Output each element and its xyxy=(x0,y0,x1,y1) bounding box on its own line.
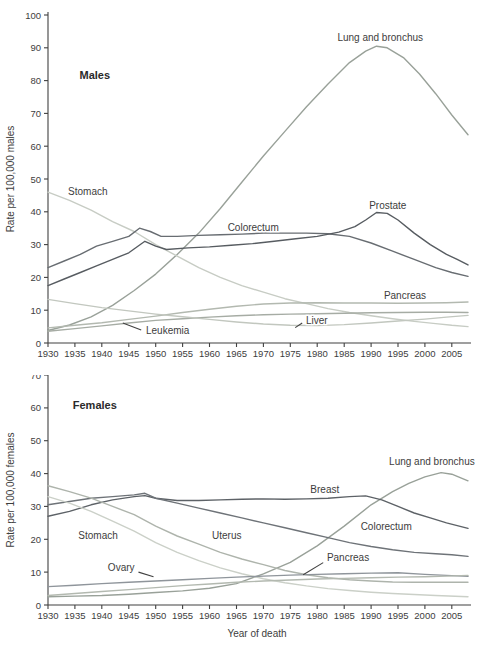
series-label-prostate: Prostate xyxy=(369,200,407,211)
x-tick-label: 1970 xyxy=(253,610,274,621)
y-tick-label: 0 xyxy=(36,338,41,349)
x-tick-label: 1980 xyxy=(307,348,328,359)
y-tick-label: 90 xyxy=(30,42,41,53)
females-y-axis-title: Rate per 100,000 females xyxy=(5,432,16,547)
x-tick-label: 1970 xyxy=(253,348,274,359)
y-tick-label: 100 xyxy=(25,10,41,21)
x-tick-label: 1995 xyxy=(387,348,408,359)
y-tick-label: 60 xyxy=(30,141,41,152)
y-tick-label: 80 xyxy=(30,75,41,86)
series-label-colorectum: Colorectum xyxy=(228,222,279,233)
x-tick-label: 1975 xyxy=(280,610,301,621)
x-tick-label: 1990 xyxy=(361,348,382,359)
x-tick-label: 1955 xyxy=(172,348,193,359)
x-tick-label: 1960 xyxy=(199,348,220,359)
y-tick-label: 40 xyxy=(30,468,41,479)
callout-line-pancreas xyxy=(303,563,323,575)
x-tick-label: 2000 xyxy=(414,348,435,359)
panel-label-males: Males xyxy=(80,69,111,81)
series-line-colorectum xyxy=(48,228,468,276)
series-label-leukemia: Leukemia xyxy=(146,325,190,336)
x-tick-label: 1935 xyxy=(64,610,85,621)
males-plot: 0102030405060708090100193019351940194519… xyxy=(25,10,471,360)
series-label-lung-and-bronchus: Lung and bronchus xyxy=(337,32,423,43)
callout-line-ovary xyxy=(139,572,154,577)
panel-label-females: Females xyxy=(73,399,117,411)
y-tick-label: 10 xyxy=(30,305,41,316)
y-tick-label: 70 xyxy=(30,375,41,381)
series-label-ovary: Ovary xyxy=(108,562,135,573)
series-label-pancreas: Pancreas xyxy=(327,552,369,563)
series-label-lung-and-bronchus: Lung and bronchus xyxy=(389,456,475,467)
x-tick-label: 1960 xyxy=(199,610,220,621)
x-tick-label: 1990 xyxy=(361,610,382,621)
x-tick-label: 1950 xyxy=(145,610,166,621)
y-tick-label: 40 xyxy=(30,206,41,217)
callout-line-leukemia xyxy=(123,323,141,330)
x-tick-label: 1975 xyxy=(280,348,301,359)
series-label-colorectum: Colorectum xyxy=(361,521,412,532)
x-tick-label: 1940 xyxy=(91,348,112,359)
y-tick-label: 20 xyxy=(30,272,41,283)
y-tick-label: 50 xyxy=(30,174,41,185)
x-tick-label: 1980 xyxy=(307,610,328,621)
series-label-breast: Breast xyxy=(310,484,339,495)
x-tick-label: 1930 xyxy=(37,348,58,359)
x-tick-label: 1985 xyxy=(334,610,355,621)
x-tick-label: 1945 xyxy=(118,348,139,359)
y-tick-label: 70 xyxy=(30,108,41,119)
y-tick-label: 50 xyxy=(30,435,41,446)
series-line-ovary xyxy=(48,573,468,587)
x-tick-label: 1995 xyxy=(387,610,408,621)
y-tick-label: 30 xyxy=(30,239,41,250)
series-label-uterus: Uterus xyxy=(212,530,241,541)
cancer-death-rates-figure: 0102030405060708090100193019351940194519… xyxy=(0,0,488,645)
females-chart: 0102030405060701930193519401945195019551… xyxy=(0,375,488,645)
x-tick-label: 2005 xyxy=(441,610,462,621)
series-label-pancreas: Pancreas xyxy=(384,290,426,301)
series-label-stomach: Stomach xyxy=(78,530,117,541)
x-tick-label: 2000 xyxy=(414,610,435,621)
x-tick-label: 1965 xyxy=(226,348,247,359)
y-tick-label: 0 xyxy=(36,600,41,611)
males-chart: 0102030405060708090100193019351940194519… xyxy=(0,0,488,375)
x-tick-label: 1940 xyxy=(91,610,112,621)
x-tick-label: 1935 xyxy=(64,348,85,359)
y-tick-label: 60 xyxy=(30,402,41,413)
y-tick-label: 30 xyxy=(30,501,41,512)
series-line-lung-and-bronchus xyxy=(48,46,468,330)
x-tick-label: 2005 xyxy=(441,348,462,359)
x-axis-title: Year of death xyxy=(227,628,286,639)
series-label-liver: Liver xyxy=(306,315,328,326)
x-tick-label: 1950 xyxy=(145,348,166,359)
y-tick-label: 20 xyxy=(30,534,41,545)
series-label-stomach: Stomach xyxy=(68,186,107,197)
females-plot: 0102030405060701930193519401945195019551… xyxy=(30,375,474,621)
x-tick-label: 1945 xyxy=(118,610,139,621)
y-tick-label: 10 xyxy=(30,567,41,578)
x-tick-label: 1930 xyxy=(37,610,58,621)
x-tick-label: 1965 xyxy=(226,610,247,621)
males-y-axis-title: Rate per 100,000 males xyxy=(5,126,16,233)
series-line-pancreas xyxy=(48,575,468,595)
x-tick-label: 1955 xyxy=(172,610,193,621)
x-tick-label: 1985 xyxy=(334,348,355,359)
